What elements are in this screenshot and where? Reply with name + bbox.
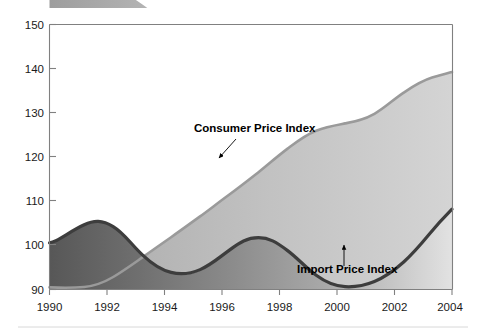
- x-tick-1994: 1994: [152, 301, 178, 313]
- y-tick-100: 100: [25, 239, 44, 251]
- x-tick-1996: 1996: [209, 301, 235, 313]
- chart-figure: 150 140 130 120 110 100 90 1990 1992 199…: [0, 0, 485, 333]
- x-tick-2004: 2004: [437, 301, 463, 313]
- x-tick-2000: 2000: [324, 301, 350, 313]
- x-tick-1998: 1998: [267, 301, 293, 313]
- y-tick-120: 120: [25, 151, 44, 163]
- y-tick-150: 150: [25, 19, 44, 31]
- x-tick-1992: 1992: [94, 301, 120, 313]
- y-tick-130: 130: [25, 107, 44, 119]
- x-tick-2002: 2002: [382, 301, 408, 313]
- y-tick-140: 140: [25, 63, 44, 75]
- x-tick-1990: 1990: [37, 301, 63, 313]
- x-tick-marks: [50, 290, 453, 296]
- import-annotation-label: Import Price Index: [297, 263, 398, 275]
- cpi-annotation-label: Consumer Price Index: [194, 122, 316, 134]
- y-tick-90: 90: [31, 284, 44, 296]
- y-tick-110: 110: [26, 195, 44, 207]
- price-index-chart: 150 140 130 120 110 100 90 1990 1992 199…: [0, 0, 485, 333]
- x-tick-labels: 1990 1992 1994 1996 1998 2000 2002 2004: [37, 301, 464, 313]
